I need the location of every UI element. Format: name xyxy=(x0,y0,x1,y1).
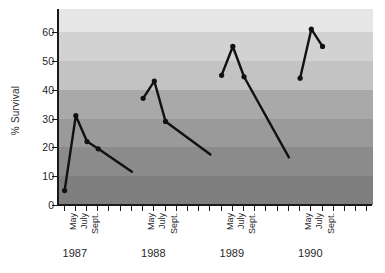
data-point-marker xyxy=(73,113,78,118)
data-line-segment xyxy=(65,116,132,191)
x-axis-tick xyxy=(142,206,143,211)
y-axis-title-text: % Survival xyxy=(11,85,22,134)
data-point-marker xyxy=(96,146,101,151)
data-point-marker xyxy=(141,96,146,101)
x-axis-tick xyxy=(333,206,334,211)
x-axis-tick xyxy=(232,206,233,211)
data-point-marker xyxy=(230,44,235,49)
y-axis-title: % Survival xyxy=(6,60,26,160)
data-line-segment xyxy=(300,29,322,78)
x-axis-month-label: Sept. xyxy=(326,213,336,234)
x-axis-year-label: 1987 xyxy=(63,247,87,259)
x-axis-month-label: July xyxy=(314,213,324,229)
x-axis-year-label: 1988 xyxy=(141,247,165,259)
x-axis-tick xyxy=(108,206,109,211)
data-point-marker xyxy=(309,27,314,32)
x-axis-month-label: July xyxy=(79,213,89,229)
data-point-marker xyxy=(241,74,246,79)
data-point-marker xyxy=(152,78,157,83)
data-line-segment xyxy=(143,81,210,155)
x-axis-tick xyxy=(310,206,311,211)
x-axis-tick xyxy=(254,206,255,211)
x-axis-tick xyxy=(187,206,188,211)
x-axis-tick xyxy=(64,206,65,211)
x-axis-tick xyxy=(243,206,244,211)
data-point-marker xyxy=(320,44,325,49)
x-axis-tick xyxy=(355,206,356,211)
x-axis-month-label: Sept. xyxy=(90,213,100,234)
x-axis-tick xyxy=(86,206,87,211)
y-axis-tick xyxy=(52,119,57,120)
x-axis-tick xyxy=(176,206,177,211)
x-axis-tick xyxy=(75,206,76,211)
x-axis-month-label: May xyxy=(146,213,156,230)
x-axis-tick xyxy=(322,206,323,211)
x-axis-tick xyxy=(198,206,199,211)
data-point-marker xyxy=(62,188,67,193)
x-axis-tick xyxy=(131,206,132,211)
x-axis-line xyxy=(58,204,372,206)
x-axis-tick xyxy=(344,206,345,211)
x-axis-tick xyxy=(288,206,289,211)
y-axis-tick xyxy=(52,61,57,62)
data-point-marker xyxy=(84,139,89,144)
x-axis-tick xyxy=(265,206,266,211)
y-axis-tick xyxy=(52,147,57,148)
plot-area xyxy=(58,9,373,205)
x-axis-tick xyxy=(299,206,300,211)
y-axis-tick xyxy=(52,32,57,33)
y-axis-tick xyxy=(52,90,57,91)
x-axis-month-label: July xyxy=(157,213,167,229)
data-point-marker xyxy=(163,119,168,124)
x-axis-tick xyxy=(221,206,222,211)
data-point-marker xyxy=(298,76,303,81)
x-axis-tick xyxy=(277,206,278,211)
x-axis-month-label: May xyxy=(225,213,235,230)
y-axis-line xyxy=(57,9,59,206)
x-axis-tick xyxy=(153,206,154,211)
x-axis-month-label: Sept. xyxy=(247,213,257,234)
data-line-segment xyxy=(222,46,289,157)
x-axis-tick xyxy=(209,206,210,211)
x-axis-tick xyxy=(120,206,121,211)
x-axis-tick xyxy=(97,206,98,211)
y-axis-tick-labels: 0102030405060 xyxy=(28,0,54,273)
y-axis-tick xyxy=(52,205,57,206)
survival-line-chart: % Survival 0102030405060 MayJulySept.May… xyxy=(0,0,385,273)
x-axis-tick xyxy=(366,206,367,211)
x-axis-tick xyxy=(165,206,166,211)
x-axis-month-label: July xyxy=(236,213,246,229)
x-axis-year-label: 1990 xyxy=(298,247,322,259)
data-point-marker xyxy=(219,73,224,78)
data-line-layer xyxy=(59,9,373,205)
x-axis-month-label: May xyxy=(68,213,78,230)
y-axis-tick xyxy=(52,176,57,177)
x-axis-month-label: Sept. xyxy=(169,213,179,234)
x-axis-month-label: May xyxy=(303,213,313,230)
x-axis-year-label: 1989 xyxy=(220,247,244,259)
